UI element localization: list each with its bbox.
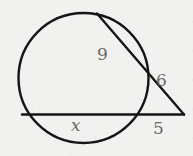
segment-label-5: 5 (153, 120, 164, 137)
segment-label-9: 9 (97, 46, 108, 63)
circle-outline (19, 13, 149, 143)
upper-secant-line (97, 14, 184, 115)
segment-label-6: 6 (156, 72, 167, 89)
geometry-diagram: 9 6 x 5 (0, 0, 193, 156)
segment-label-x: x (71, 117, 81, 134)
